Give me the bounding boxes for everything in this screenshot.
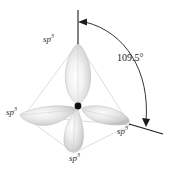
orbital-label-top: sp3 [43,33,54,44]
sp3-orbital-diagram [0,0,170,173]
orbital-label-left: sp3 [6,106,17,117]
bond-angle-label: 109.5° [117,52,144,63]
arrowhead-top [78,19,87,26]
orbital-label-bottom: sp3 [69,152,80,163]
orbital-label-right: sp3 [117,125,128,136]
nucleus-dot [75,103,82,110]
orbital-lobe-right [82,106,129,125]
orbital-lobe-top [65,44,90,105]
arrowhead-bottom [142,118,150,127]
orbital-lobe-left [20,106,76,126]
